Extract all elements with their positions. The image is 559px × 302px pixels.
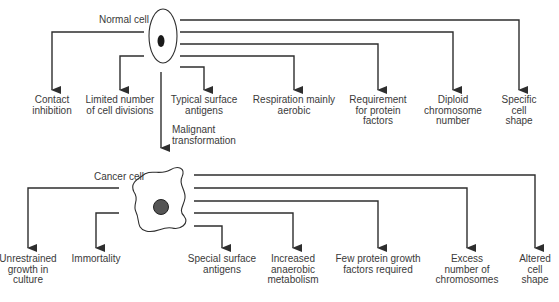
label-few-growth-factors: Few protein growth factors required [328, 254, 428, 275]
label-typical-antigens: Typical surface antigens [164, 95, 244, 116]
arrow-specific-shape [180, 20, 519, 90]
arrow-excess-chromosomes [194, 188, 467, 248]
label-specific-shape: Specific cell shape [494, 95, 544, 127]
label-altered-shape: Altered cell shape [510, 254, 559, 286]
arrow-protein-factors [180, 44, 378, 90]
arrow-unrestrained-growth [28, 188, 119, 248]
arrow-limited-divisions [120, 56, 144, 90]
label-anaerobic-metabolism: Increased anaerobic metabolism [258, 254, 328, 286]
label-immortality: Immortality [66, 254, 126, 265]
label-aerobic-respiration: Respiration mainly aerobic [249, 95, 339, 116]
arrow-altered-shape [194, 175, 535, 248]
faint-caption-strip [0, 294, 559, 300]
cancer-cell-label: Cancer cell [94, 171, 144, 182]
label-diploid: Diploid chromosome number [418, 95, 488, 127]
malignant-transformation-label: Malignant transformation [172, 125, 236, 146]
label-protein-factors: Requirement for protein factors [343, 95, 413, 127]
normal-cell-nucleus [158, 35, 165, 47]
normal-cell-shape [149, 9, 177, 63]
arrow-special-antigens [194, 226, 222, 248]
arrow-diploid [180, 32, 453, 90]
label-unrestrained-growth: Unrestrained growth in culture [0, 254, 60, 286]
arrow-aerobic-respiration [180, 56, 294, 90]
label-special-antigens: Special surface antigens [182, 254, 262, 275]
cancer-cell-nucleus [154, 200, 169, 215]
label-contact-inhibition: Contact inhibition [22, 95, 82, 116]
label-excess-chromosomes: Excess number of chromosomes [432, 254, 502, 286]
arrow-typical-antigens [180, 67, 204, 90]
arrow-contact-inhibition [52, 32, 144, 90]
arrow-anaerobic-metabolism [194, 213, 293, 248]
arrow-immortality [96, 213, 119, 248]
normal-cell-label: Normal cell [99, 14, 149, 25]
label-limited-divisions: Limited number of cell divisions [80, 95, 160, 116]
